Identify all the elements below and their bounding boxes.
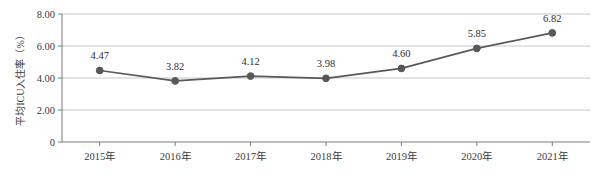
x-axis-category-label: 2017年	[235, 150, 266, 162]
x-axis-category-label: 2021年	[537, 150, 568, 162]
data-point-marker	[398, 65, 405, 72]
data-point-marker	[323, 75, 330, 82]
y-axis-tick-label: 2.00	[37, 105, 55, 116]
x-axis-category-label: 2020年	[461, 150, 492, 162]
x-axis-category-label: 2018年	[311, 150, 342, 162]
data-point-marker	[247, 73, 254, 80]
y-axis-title: 平均ICU入住率（%）	[14, 30, 26, 126]
y-axis-tick-label: 4.00	[37, 73, 55, 84]
y-axis-tick-label: 0	[50, 137, 55, 148]
x-axis-category-label: 2015年	[84, 150, 115, 162]
x-axis-category-label: 2016年	[160, 150, 191, 162]
line-chart: 02.004.006.008.00 2015年2016年2017年2018年20…	[0, 0, 603, 180]
data-point-marker	[172, 77, 179, 84]
data-point-label: 3.98	[317, 58, 335, 69]
data-point-marker	[96, 67, 103, 74]
x-axis-category-label: 2019年	[386, 150, 417, 162]
data-point-marker	[549, 29, 556, 36]
data-point-label: 4.12	[241, 56, 259, 67]
chart-container: 02.004.006.008.00 2015年2016年2017年2018年20…	[0, 0, 603, 180]
data-point-label: 6.82	[543, 13, 561, 24]
data-point-label: 5.85	[468, 28, 486, 39]
data-point-label: 4.47	[91, 50, 109, 61]
y-axis-tick-label: 8.00	[37, 9, 55, 20]
y-axis-tick-label: 6.00	[37, 41, 55, 52]
data-point-marker	[473, 45, 480, 52]
data-point-label: 3.82	[166, 61, 184, 72]
data-point-label: 4.60	[392, 48, 410, 59]
